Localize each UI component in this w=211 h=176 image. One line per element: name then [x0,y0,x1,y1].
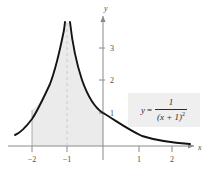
equation-lhs: y [141,105,145,115]
equation-numerator: 1 [166,98,177,107]
equation-fraction: 1 (x + 1)2 [155,98,187,122]
equation-denominator-base: (x + 1) [157,112,182,122]
equation-fraction-bar [155,109,187,110]
function-plot: y x −2 −1 1 2 1 2 3 [0,0,211,176]
y-axis-label: y [103,4,108,13]
x-tick-label--1: −1 [63,155,72,164]
equation-equals-sign: = [147,105,152,115]
equation-denominator: (x + 1)2 [155,111,187,122]
y-tick-label-1: 1 [110,109,114,118]
equation-callout-box: y = 1 (x + 1)2 [128,93,200,127]
y-tick-label-3: 3 [110,44,114,53]
y-axis-arrowhead [100,16,105,22]
x-tick-label-2: 2 [170,155,174,164]
x-axis-label: x [197,143,202,152]
x-tick-label--2: −2 [28,155,37,164]
x-tick-label-1: 1 [137,155,141,164]
equation-expression: y = 1 (x + 1)2 [141,98,187,122]
equation-exponent: 2 [182,111,185,117]
y-tick-label-2: 2 [110,76,114,85]
